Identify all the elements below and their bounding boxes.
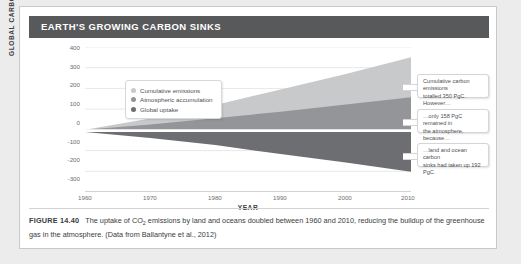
figure-card: EARTH'S GROWING CARBON SINKS GLOBAL CARB… [19, 6, 497, 249]
x-tick-1980: 1980 [208, 194, 222, 201]
y-tick-m300: -300 [68, 175, 80, 182]
x-tick-2010: 2010 [401, 194, 415, 201]
legend-swatch-icon [131, 97, 136, 102]
x-tick-1960: 1960 [78, 194, 92, 201]
legend-swatch-icon [131, 88, 136, 93]
callout-uptake-line2: sinks had taken up 192 PgC. [423, 162, 484, 177]
caption-text-co2-lead: The uptake of CO [85, 216, 143, 225]
callout-uptake: …land and ocean carbon sinks had taken u… [417, 143, 489, 167]
x-tick-2000: 2000 [338, 194, 352, 201]
series-global-uptake [85, 132, 411, 172]
legend-item-global-uptake: Global uptake [131, 105, 213, 114]
caption-divider [29, 208, 489, 209]
chart-legend: Cumulative emissions Atmospheric accumul… [125, 80, 222, 119]
y-tick-m200: -200 [68, 156, 80, 163]
figure-page: EARTH'S GROWING CARBON SINKS GLOBAL CARB… [0, 0, 521, 264]
chart-title: EARTH'S GROWING CARBON SINKS [41, 21, 221, 32]
y-tick-300: 300 [70, 63, 80, 70]
callout-uptake-line1: …land and ocean carbon [423, 147, 484, 162]
plot-region [85, 47, 411, 192]
chart-header-band: EARTH'S GROWING CARBON SINKS [29, 16, 489, 38]
y-tick-200: 200 [70, 81, 80, 88]
callout-atmosphere-line1: …only 158 PgC remained in [423, 113, 484, 128]
figure-caption: FIGURE 14.40 The uptake of CO2 emissions… [29, 215, 489, 240]
callout-atmosphere: …only 158 PgC remained in the atmosphere… [417, 109, 489, 133]
chart-area: GLOBAL CARBON ACCUMULATION (PgC) 400 300… [29, 40, 489, 207]
legend-label: Global uptake [140, 106, 178, 113]
y-tick-400: 400 [70, 44, 80, 51]
callout-atmosphere-line2: the atmosphere, because… [423, 128, 484, 143]
y-axis-tick-labels: 400 300 200 100 0 -100 -200 -300 [47, 47, 80, 192]
legend-label: Atmospheric accumulation [140, 96, 213, 103]
y-tick-m100: -100 [68, 138, 80, 145]
legend-swatch-icon [131, 107, 136, 112]
callout-emissions-line1: Cumulative carbon emissions [423, 78, 484, 93]
zero-gap [85, 129, 411, 132]
y-tick-0: 0 [77, 119, 80, 126]
x-tick-1990: 1990 [273, 194, 287, 201]
y-axis-title: GLOBAL CARBON ACCUMULATION (PgC) [8, 0, 15, 56]
legend-item-atmospheric-accumulation: Atmospheric accumulation [131, 95, 213, 104]
y-tick-100: 100 [70, 100, 80, 107]
legend-item-cumulative-emissions: Cumulative emissions [131, 86, 213, 95]
caption-label: FIGURE 14.40 [29, 216, 79, 225]
callout-emissions-line2: totalled 350 PgC. However… [423, 93, 484, 108]
x-tick-1970: 1970 [143, 194, 157, 201]
callout-emissions: Cumulative carbon emissions totalled 350… [417, 74, 489, 98]
legend-label: Cumulative emissions [140, 87, 200, 94]
